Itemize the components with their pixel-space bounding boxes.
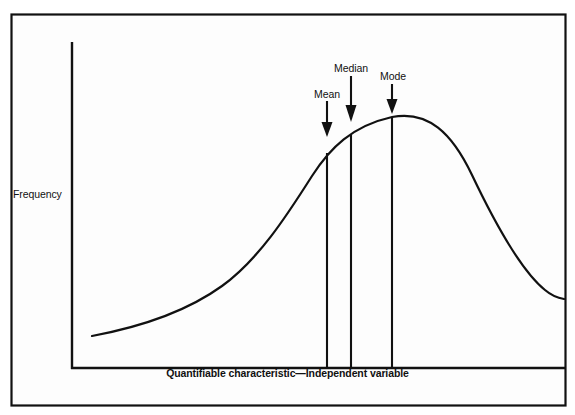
- x-axis-label: Quantifiable characteristic—Independent …: [0, 367, 575, 379]
- mean-label: Mean: [314, 88, 340, 100]
- median-label: Median: [334, 62, 368, 74]
- y-axis-label: Frequency: [13, 188, 62, 200]
- figure-frame: Frequency Quantifiable characteristic—In…: [0, 0, 575, 415]
- chart-canvas: [0, 0, 575, 415]
- mode-label: Mode: [380, 70, 406, 82]
